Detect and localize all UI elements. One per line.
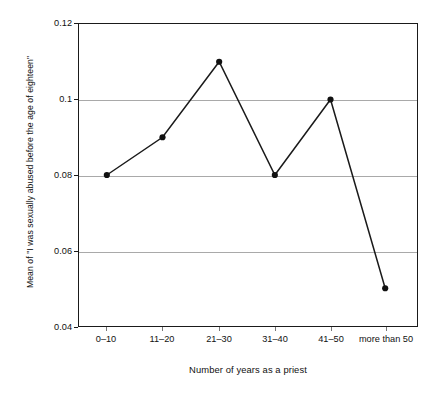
x-tick-mark <box>386 327 387 331</box>
data-point <box>104 172 110 178</box>
y-tick-label: 0.04 <box>6 322 78 332</box>
x-axis-ticks: 0–10 11–20 21–30 31–40 41–50 more than 5… <box>78 327 418 369</box>
series-markers <box>104 59 389 292</box>
x-tick-label: more than 50 <box>356 334 416 346</box>
x-tick-mark <box>219 327 220 331</box>
x-tick-mark <box>275 327 276 331</box>
line-chart: Mean of "I was sexually abused before th… <box>0 0 437 394</box>
x-tick-mark <box>106 327 107 331</box>
x-axis-title: Number of years as a priest <box>78 364 418 375</box>
y-tick-label: 0.12 <box>6 18 78 28</box>
series-polyline <box>107 62 385 289</box>
data-point <box>216 59 222 65</box>
plot-area <box>78 23 418 327</box>
x-tick-mark <box>331 327 332 331</box>
y-tick-label: 0.08 <box>6 170 78 180</box>
data-point <box>327 96 333 102</box>
data-point <box>272 172 278 178</box>
x-tick-mark <box>162 327 163 331</box>
data-point <box>159 134 165 140</box>
y-axis-ticks: 0.12 0.1 0.08 0.06 0.04 <box>0 23 78 327</box>
y-tick-label: 0.06 <box>6 246 78 256</box>
data-point <box>382 285 388 291</box>
data-series-line <box>79 24 417 326</box>
y-tick-label: 0.1 <box>6 94 78 104</box>
